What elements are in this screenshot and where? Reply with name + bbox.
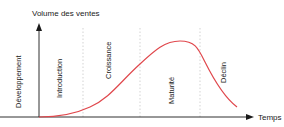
phase-label-croissance: Croissance bbox=[104, 41, 113, 79]
y-axis-label: Volume des ventes bbox=[32, 9, 100, 18]
phase-label-introduction: Introduction bbox=[55, 59, 64, 98]
product-life-cycle-diagram: Volume des ventes Temps Développement In… bbox=[0, 0, 284, 127]
x-axis-arrow-icon bbox=[246, 114, 254, 120]
phase-label-maturite: Maturité bbox=[167, 77, 176, 104]
sales-curve bbox=[39, 41, 237, 117]
y-axis-arrow-icon bbox=[36, 23, 42, 31]
phase-label-declin: Déclin bbox=[219, 62, 228, 83]
x-axis-label: Temps bbox=[258, 113, 282, 122]
phase-label-developpement: Développement bbox=[14, 55, 23, 108]
